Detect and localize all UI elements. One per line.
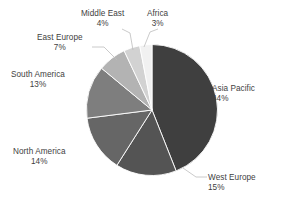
pie-chart: Asia Pacific 44% West Europe 15% North A… — [0, 0, 287, 202]
slice-label-value: 7% — [37, 43, 83, 53]
slice-label-value: 14% — [13, 157, 66, 167]
leader-line-west-europe — [183, 168, 207, 177]
slice-label-name: West Europe — [208, 173, 256, 183]
slice-label-value: 15% — [208, 183, 256, 193]
slice-label-north-america: North America 14% — [13, 147, 66, 166]
slice-label-name: South America — [11, 70, 65, 80]
leader-line-middle-east — [122, 29, 133, 50]
slice-label-name: East Europe — [37, 33, 83, 43]
pie-slices — [87, 45, 218, 176]
slice-label-value: 13% — [11, 80, 65, 90]
slice-label-west-europe: West Europe 15% — [208, 173, 256, 192]
slice-label-value: 3% — [147, 19, 168, 29]
slice-label-middle-east: Middle East 4% — [81, 9, 124, 28]
slice-label-asia-pacific: Asia Pacific 44% — [212, 84, 255, 103]
slice-label-value: 4% — [81, 19, 124, 29]
slice-label-name: Africa — [147, 9, 168, 19]
slice-label-name: Asia Pacific — [212, 84, 255, 94]
slice-label-value: 44% — [212, 94, 255, 104]
slice-label-africa: Africa 3% — [147, 9, 168, 28]
slice-label-east-europe: East Europe 7% — [37, 33, 83, 52]
slice-label-name: Middle East — [81, 9, 124, 19]
slice-label-name: North America — [13, 147, 66, 157]
slice-label-south-america: South America 13% — [11, 70, 65, 89]
